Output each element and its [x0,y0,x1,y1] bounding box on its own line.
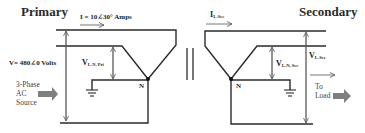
primary-winding [56,30,176,123]
secondary-vln-label: VL-N, Sec [276,60,298,69]
secondary-vll-subscript: L-Sec [315,55,326,60]
secondary-winding [205,31,326,124]
primary-neutral-label: N [139,83,144,90]
secondary-vll-label: VL-Sec [309,52,326,61]
load-label-line: To [315,82,330,91]
source-label-line: 3-Phase [16,80,40,89]
secondary-vln-subscript: L-N, Sec [282,63,299,68]
load-block-arrow-icon [333,89,351,103]
load-label: To Load [315,82,330,100]
secondary-neutral-node [229,77,233,81]
source-label: 3-Phase AC Source [16,80,40,107]
secondary-neutral-label: N [236,83,241,90]
source-label-line: Source [16,98,40,107]
primary-vln-label: VL-N, Pri [82,59,104,68]
secondary-current-label: IL-Sec [210,11,224,20]
source-label-line: AC [16,89,40,98]
primary-current-label: I = 10∠30° Amps [80,14,132,21]
primary-ground-icon [86,90,98,96]
load-label-line: Load [315,91,330,100]
secondary-ground-icon [284,90,296,96]
transformer-core-icon [187,48,193,80]
source-block-arrow-icon [38,87,58,101]
secondary-arrows [206,24,335,123]
primary-arrows [66,25,113,121]
secondary-title: Secondary [299,5,358,18]
primary-vln-subscript: L-N, Pri [88,62,104,67]
primary-neutral-node [146,77,150,81]
transformer-diagram: Primary I = 10∠30° Amps V= 480∠0 Volts V… [0,0,365,133]
primary-voltage-label: V= 480∠0 Volts [9,60,56,67]
primary-title: Primary [21,5,68,18]
secondary-current-subscript: L-Sec [213,14,224,19]
